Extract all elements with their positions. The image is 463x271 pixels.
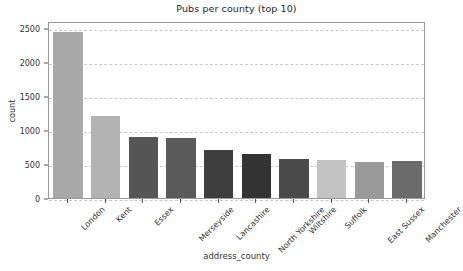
x-tick-mark [67,199,68,203]
x-tick-mark [293,199,294,203]
plot-area [48,22,425,199]
y-tick-label: 2500 [20,24,40,33]
bar [279,159,308,198]
x-tick-label: Kent [114,205,133,224]
x-tick-label: London [79,205,106,232]
bar-series [49,23,424,198]
bar [317,160,346,198]
chart-title: Pubs per county (top 10) [48,3,425,14]
bar [242,154,271,198]
x-tick-mark [105,199,106,203]
x-tick-mark [218,199,219,203]
x-tick-mark [331,199,332,203]
bar [166,138,195,198]
x-axis-label: address_county [48,251,425,261]
x-tick-label: Essex [153,205,176,228]
y-tick-label: 1000 [20,126,40,135]
x-tick-label: Manchester [424,205,463,244]
bar [204,150,233,198]
y-axis: count 05001000150020002500 [0,22,48,199]
bar [392,161,421,198]
y-tick-label: 1500 [20,92,40,101]
y-tick-label: 2000 [20,58,40,67]
x-tick-label: Suffolk [343,205,369,231]
x-axis: LondonKentEssexMerseysideLancashireNorth… [48,199,425,249]
y-axis-label: count [8,99,17,122]
x-tick-mark [180,199,181,203]
x-tick-mark [255,199,256,203]
x-tick-mark [368,199,369,203]
y-tick-label: 500 [25,160,40,169]
x-tick-label: Merseyside [197,205,235,243]
bar [355,162,384,198]
x-tick-mark [142,199,143,203]
bar [53,32,82,198]
bar [129,137,158,198]
bar [91,116,120,198]
x-tick-label: East Sussex [386,205,426,245]
x-tick-mark [406,199,407,203]
y-tick-label: 0 [35,195,40,204]
x-tick-label: Lancashire [234,205,271,242]
